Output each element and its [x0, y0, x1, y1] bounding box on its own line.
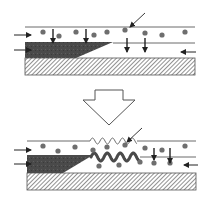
- hatched-substrate: [25, 58, 195, 75]
- particle: [55, 148, 60, 153]
- transition-arrow: [83, 90, 135, 125]
- pointer-arrow-icon: [130, 13, 145, 27]
- particle: [122, 142, 127, 147]
- particle: [159, 32, 164, 37]
- deposit-wedge: [27, 155, 93, 173]
- particle: [104, 29, 109, 34]
- deposit-wedge: [25, 42, 113, 58]
- particle: [40, 29, 45, 34]
- particle: [116, 162, 121, 167]
- particle: [159, 147, 164, 152]
- diagram-canvas: [0, 0, 211, 205]
- panel-before: [14, 13, 196, 75]
- particle: [122, 27, 127, 32]
- particle: [72, 144, 77, 149]
- particle: [182, 143, 187, 148]
- particle: [137, 159, 142, 164]
- panel-after: [14, 128, 198, 190]
- schematic-figure: [0, 0, 211, 205]
- particle: [73, 29, 78, 34]
- particle: [56, 33, 61, 38]
- hollow-down-arrow-icon: [83, 90, 135, 125]
- particle: [96, 163, 101, 168]
- particle: [182, 29, 187, 34]
- hatched-substrate: [27, 173, 196, 190]
- particle: [104, 144, 109, 149]
- particle: [151, 160, 156, 165]
- particle: [142, 145, 147, 150]
- particle: [90, 147, 95, 152]
- particle: [40, 143, 45, 148]
- particle: [91, 32, 96, 37]
- wavy-interface: [91, 153, 140, 161]
- particle: [142, 30, 147, 35]
